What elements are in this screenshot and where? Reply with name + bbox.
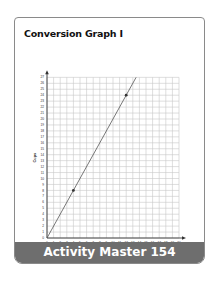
y-tick-label: 16	[40, 141, 44, 145]
grid	[47, 77, 179, 238]
y-tick-label: 9	[42, 183, 44, 187]
y-tick-label: 22	[40, 105, 44, 109]
y-tick-label: 5	[42, 206, 44, 210]
y-tick-label: 21	[40, 111, 44, 115]
y-tick-label: 24	[40, 93, 44, 97]
y-tick-label: 25	[40, 87, 44, 91]
y-tick-label: 2	[42, 224, 44, 228]
y-tick-label: 0	[42, 236, 44, 240]
y-tick-label: 27	[40, 75, 44, 79]
y-tick-label: 12	[40, 165, 44, 169]
y-tick-label: 17	[40, 135, 44, 139]
y-tick-label: 26	[40, 81, 44, 85]
y-tick-label: 15	[40, 147, 44, 151]
y-tick-label: 6	[42, 200, 44, 204]
y-tick-label: 19	[40, 123, 44, 127]
y-tick-label: 14	[40, 153, 44, 157]
y-tick-label: 13	[40, 159, 44, 163]
y-tick-label: 10	[40, 177, 44, 181]
y-tick-label: 23	[40, 99, 44, 103]
y-arrow-icon	[45, 70, 49, 74]
y-tick-label: 11	[41, 171, 45, 175]
y-tick-label: 8	[42, 189, 44, 193]
y-tick-label: 20	[40, 117, 44, 121]
y-tick-label: 3	[42, 218, 44, 222]
y-tick-label: 4	[42, 212, 44, 216]
data-point	[72, 189, 75, 192]
y-axis-label: Cups	[33, 153, 37, 163]
y-tick-label: 7	[42, 194, 44, 198]
data-point	[125, 94, 128, 97]
y-tick-label: 1	[42, 230, 44, 234]
x-arrow-icon	[182, 236, 186, 240]
y-tick-label: 18	[40, 129, 44, 133]
footer-banner: Activity Master 154	[15, 242, 204, 263]
activity-card: Conversion Graph I 012345678910111213141…	[14, 17, 205, 264]
conversion-chart: 0123456789101112131415161718192001234567…	[15, 18, 205, 264]
